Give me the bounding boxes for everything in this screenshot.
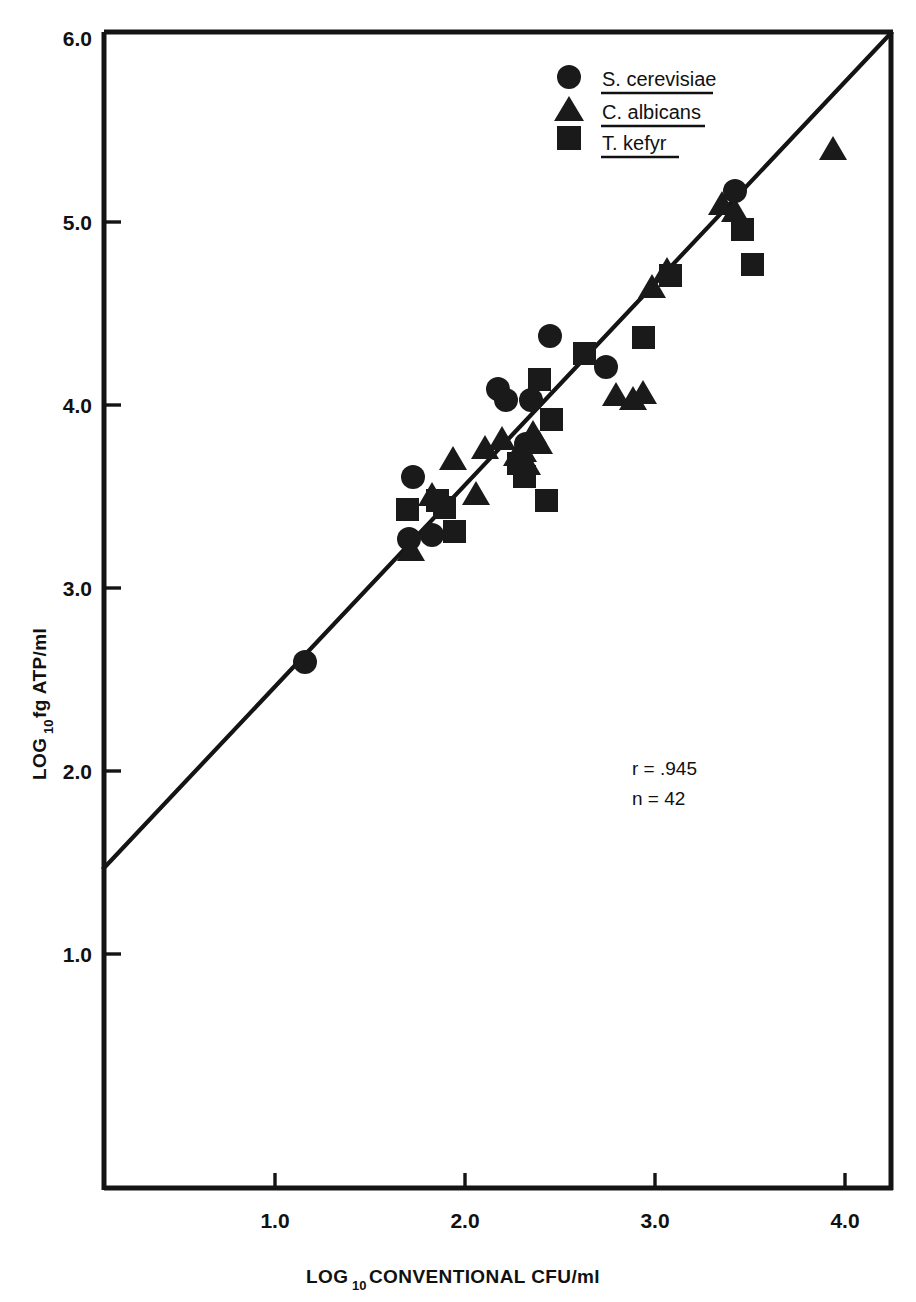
x-axis-title-main: LOG [306, 1266, 348, 1287]
data-point-square [433, 496, 456, 519]
data-point-circle [401, 465, 425, 489]
data-point-triangle [819, 136, 847, 160]
data-point-square [528, 368, 551, 391]
data-point-circle [494, 388, 518, 412]
figure-container: 6.0 5.0 4.0 3.0 2.0 1.0 1.0 2.0 3.0 4.0 … [0, 0, 916, 1302]
y-tick-label-6: 6.0 [63, 27, 92, 50]
x-axis-title: LOG 10 CONVENTIONAL CFU/ml [306, 1266, 600, 1293]
data-point-square [741, 253, 764, 276]
data-point-triangle [439, 446, 467, 470]
x-axis-title-rest: CONVENTIONAL CFU/ml [369, 1266, 600, 1287]
series-t-kefyr-markers [396, 218, 764, 543]
x-tick-label-4: 4.0 [830, 1209, 859, 1232]
y-tick-label-2: 2.0 [63, 760, 92, 783]
y-axis-title: LOG 10 fg ATP/ml [29, 628, 56, 780]
data-point-square [513, 465, 536, 488]
legend-marker-triangle-icon [554, 96, 584, 121]
legend-marker-circle-icon [557, 65, 581, 89]
legend-label-t-kefyr: T. kefyr [602, 132, 667, 154]
data-point-circle [420, 523, 444, 547]
y-axis-title-sub: 10 [41, 720, 56, 734]
y-axis-title-rest: fg ATP/ml [29, 628, 50, 718]
y-axis-title-main: LOG [29, 738, 50, 780]
x-tick-label-3: 3.0 [640, 1209, 669, 1232]
data-point-square [632, 326, 655, 349]
data-point-square [396, 498, 419, 521]
correlation-coefficient-label: r = .945 [632, 758, 697, 779]
x-tick-label-1: 1.0 [260, 1209, 289, 1232]
legend: S. cerevisiae C. albicans T. kefyr [554, 65, 717, 157]
legend-marker-square-icon [557, 126, 581, 150]
x-tick-label-2: 2.0 [450, 1209, 479, 1232]
y-tick-label-3: 3.0 [63, 577, 92, 600]
y-tick-labels: 6.0 5.0 4.0 3.0 2.0 1.0 [63, 27, 92, 966]
x-axis-title-sub: 10 [352, 1278, 366, 1293]
sample-size-label: n = 42 [632, 788, 685, 809]
legend-label-s-cerevisiae: S. cerevisiae [602, 68, 717, 90]
data-point-square [540, 408, 563, 431]
data-point-square [573, 342, 596, 365]
x-tick-labels: 1.0 2.0 3.0 4.0 [260, 1209, 859, 1232]
data-point-square [443, 520, 466, 543]
y-tick-label-1: 1.0 [63, 943, 92, 966]
data-point-square [535, 489, 558, 512]
scatter-plot: 6.0 5.0 4.0 3.0 2.0 1.0 1.0 2.0 3.0 4.0 … [0, 0, 916, 1302]
plot-frame [104, 32, 893, 1190]
data-point-circle [594, 355, 618, 379]
data-point-circle [538, 324, 562, 348]
y-tick-label-4: 4.0 [63, 394, 92, 417]
series-c-albicans-markers [397, 136, 847, 561]
data-point-square [659, 264, 682, 287]
y-axis-ticks [104, 222, 121, 954]
data-point-circle [293, 650, 317, 674]
y-tick-label-5: 5.0 [63, 211, 92, 234]
legend-label-c-albicans: C. albicans [602, 101, 701, 123]
data-point-square [731, 218, 754, 241]
data-point-circle [519, 388, 543, 412]
regression-line [104, 33, 891, 868]
stats-annotation: r = .945 n = 42 [632, 758, 697, 809]
